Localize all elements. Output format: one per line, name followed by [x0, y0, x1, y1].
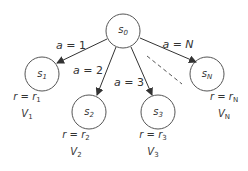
node-label-sN: sN — [202, 69, 212, 81]
reward-value-s2: r = r2 V2 — [62, 128, 89, 162]
edge-label-a2: a = 2 — [73, 65, 103, 76]
node-label-s2: s2 — [84, 107, 94, 119]
node-label-s3: s3 — [153, 107, 163, 119]
reward-value-s1: r = r1 V1 — [13, 90, 40, 124]
edge-label-aN: a = N — [162, 39, 193, 50]
reward-value-s3: r = r3 V3 — [139, 128, 166, 162]
ellipsis-dashed-line — [147, 56, 182, 84]
node-label-s1: s1 — [37, 69, 47, 81]
node-label-s0: s0 — [118, 25, 128, 37]
edge-label-a1: a = 1 — [56, 40, 86, 51]
edge-label-a3: a = 3 — [114, 77, 144, 88]
reward-value-sN: r = rN VN — [210, 90, 238, 124]
